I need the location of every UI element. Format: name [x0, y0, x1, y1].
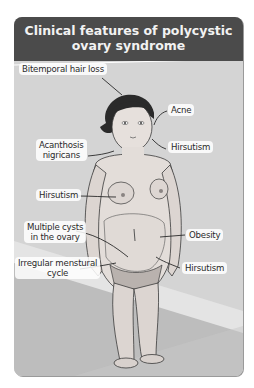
diagram-title: Clinical features of polycystic ovary sy… [14, 17, 243, 61]
irregular-line-1: Irregular menstural [18, 258, 97, 268]
label-obesity: Obesity [186, 229, 223, 241]
title-line-2: ovary syndrome [14, 38, 243, 53]
pcos-diagram-panel: Clinical features of polycystic ovary sy… [14, 17, 243, 376]
title-line-1: Clinical features of polycystic [14, 23, 243, 38]
label-multiple-cysts: Multiple cysts in the ovary [24, 221, 86, 243]
label-hirsutism-face: Hirsutism [168, 141, 213, 153]
label-acne: Acne [168, 104, 194, 116]
irregular-line-2: cycle [18, 268, 97, 278]
label-hirsutism-lower: Hirsutism [182, 262, 227, 274]
illustration-scene: Bitemporal hair loss Acne Acanthosis nig… [14, 61, 243, 376]
multiple-cysts-line-1: Multiple cysts [27, 222, 83, 232]
multiple-cysts-line-2: in the ovary [27, 232, 83, 242]
acanthosis-line-1: Acanthosis [39, 140, 84, 150]
label-irregular-menstrual-cycle: Irregular menstural cycle [15, 257, 100, 279]
label-bitemporal-hair-loss: Bitemporal hair loss [19, 63, 107, 75]
acanthosis-line-2: nigricans [39, 150, 84, 160]
figure-illustration [14, 61, 243, 376]
label-acanthosis-nigricans: Acanthosis nigricans [36, 139, 87, 161]
label-hirsutism-chest: Hirsutism [36, 189, 81, 201]
